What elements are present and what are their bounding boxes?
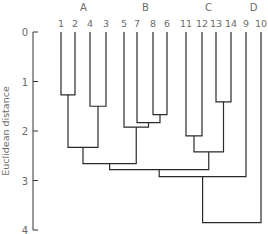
leaf-label: 6 (164, 18, 170, 29)
cluster-label: B (142, 2, 149, 13)
leaf-label: 8 (150, 18, 156, 29)
y-tick-label: 4 (22, 225, 28, 234)
dendrogram-link (83, 127, 136, 164)
y-tick-label: 3 (22, 176, 28, 187)
dendrogram-link (90, 32, 106, 106)
cluster-labels: ABCD (80, 2, 258, 13)
dendrogram-link (203, 32, 261, 223)
y-axis-label: Euclidean distance (0, 86, 11, 176)
y-axis: 01234 (22, 27, 38, 234)
dendrogram-link (124, 32, 149, 127)
leaf-label: 5 (121, 18, 127, 29)
leaf-label: 1 (58, 18, 64, 29)
leaf-label: 11 (180, 18, 192, 29)
cluster-label: D (250, 2, 258, 13)
leaf-label: 7 (134, 18, 140, 29)
leaf-label: 12 (196, 18, 208, 29)
dendrogram-link (194, 102, 224, 152)
leaf-label: 14 (225, 18, 237, 29)
leaf-label: 10 (255, 18, 267, 29)
dendrogram-link (68, 95, 98, 147)
dendrogram-chart: 01234 Euclidean distance ABCD 1243578611… (0, 0, 268, 234)
dendrogram-link (110, 152, 209, 170)
leaf-labels: 1243578611121314910 (58, 18, 267, 29)
dendrogram-link (61, 32, 75, 95)
y-tick-label: 2 (22, 126, 28, 137)
leaf-label: 13 (210, 18, 222, 29)
cluster-label: C (205, 2, 212, 13)
dendrogram-link (216, 32, 231, 102)
dendrogram-link (137, 32, 160, 123)
dendrogram-link (153, 32, 167, 115)
y-tick-label: 0 (22, 27, 28, 38)
leaf-label: 4 (87, 18, 93, 29)
dendrogram-links (61, 32, 261, 223)
cluster-label: A (80, 2, 87, 13)
leaf-label: 9 (243, 18, 249, 29)
y-tick-label: 1 (22, 77, 28, 88)
leaf-label: 2 (72, 18, 78, 29)
dendrogram-link (186, 32, 202, 136)
leaf-label: 3 (103, 18, 109, 29)
